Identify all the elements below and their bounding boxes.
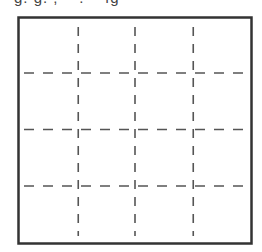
grid-figure [0,0,262,252]
